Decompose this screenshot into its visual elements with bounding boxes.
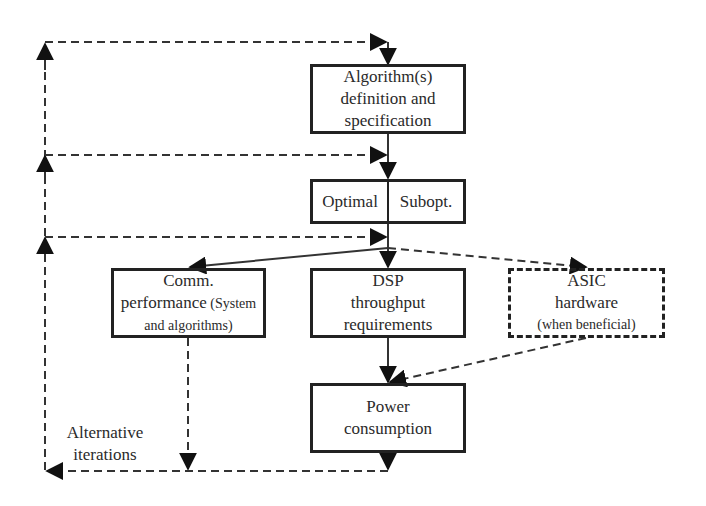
choice-to-comm bbox=[190, 248, 388, 267]
optimal-label: Optimal bbox=[313, 182, 389, 221]
optimal-suboptimal-box: Optimal Subopt. bbox=[310, 179, 466, 224]
suboptimal-label: Subopt. bbox=[389, 182, 463, 221]
algorithm-line-1: Algorithm(s) bbox=[344, 66, 433, 88]
dsp-line-1: DSP bbox=[372, 270, 403, 292]
asic-to-power bbox=[390, 338, 586, 382]
algorithm-definition-box: Algorithm(s) definition and specificatio… bbox=[310, 64, 466, 134]
dsp-throughput-box: DSP throughput requirements bbox=[310, 268, 466, 338]
power-line-1: Power bbox=[366, 396, 409, 418]
algorithm-line-3: specification bbox=[345, 110, 432, 132]
alternative-iterations-label: Alternative iterations bbox=[55, 422, 155, 466]
asic-line-1: ASIC bbox=[567, 270, 606, 292]
asic-hardware-box: ASIC hardware (when beneficial) bbox=[508, 268, 665, 338]
dsp-line-3: requirements bbox=[344, 314, 433, 336]
comm-line-2-small: (System bbox=[207, 296, 256, 311]
asic-line-3: (when beneficial) bbox=[537, 314, 635, 336]
comm-performance-box: Comm. performance (System and algorithms… bbox=[111, 268, 266, 338]
power-line-2: consumption bbox=[344, 418, 432, 440]
algorithm-line-2: definition and bbox=[341, 88, 436, 110]
comm-line-2-main: performance bbox=[121, 293, 207, 312]
comm-line-1: Comm. bbox=[163, 270, 214, 292]
comm-line-3: and algorithms) bbox=[144, 315, 232, 337]
dsp-line-2: throughput bbox=[351, 292, 426, 314]
iterations-line-2: iterations bbox=[55, 444, 155, 466]
comm-line-2: performance (System bbox=[121, 292, 256, 315]
power-consumption-box: Power consumption bbox=[310, 383, 466, 453]
choice-to-asic bbox=[388, 248, 586, 267]
iterations-line-1: Alternative bbox=[55, 422, 155, 444]
asic-line-2: hardware bbox=[555, 292, 618, 314]
